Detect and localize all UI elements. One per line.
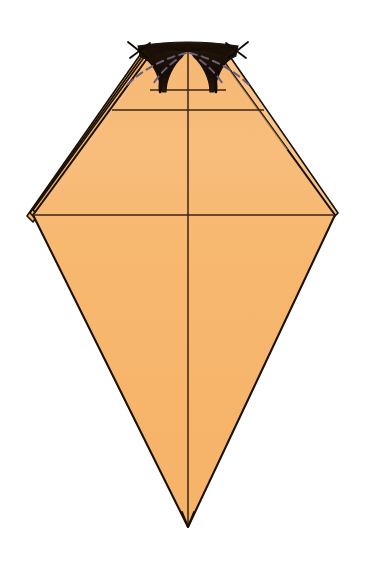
origami-diagram-canvas — [0, 0, 368, 567]
origami-figure — [0, 0, 368, 567]
